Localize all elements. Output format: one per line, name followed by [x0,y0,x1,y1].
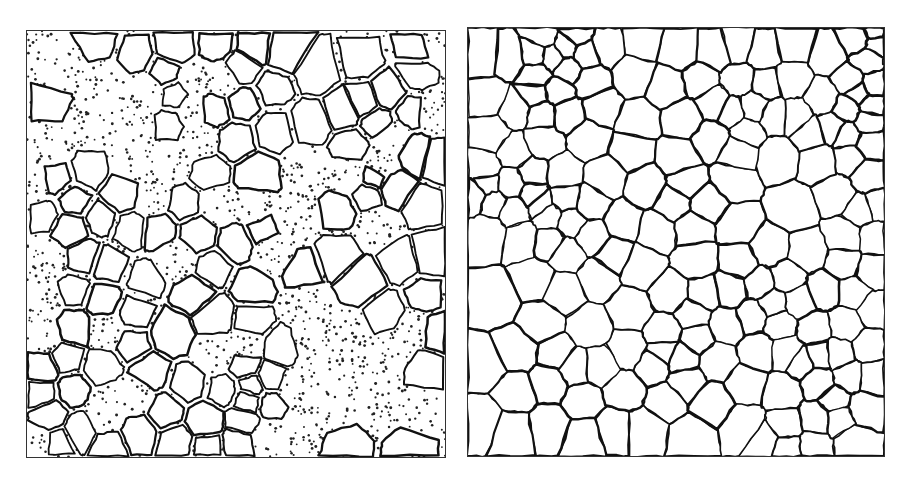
micrograph-panel-right [467,27,885,457]
grain-structure-with-matrix [27,31,445,457]
polygonal-grain-network [468,28,884,456]
grain-boundaries [468,28,884,456]
micrograph-panel-left [26,30,446,458]
